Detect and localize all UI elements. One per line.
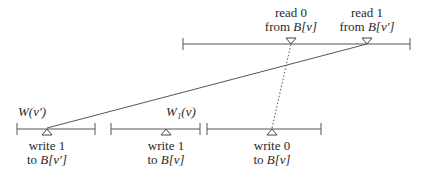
math: B[v]: [161, 152, 185, 167]
read-0-label: read 0 from B[v]: [265, 6, 317, 34]
solid-link-line: [47, 44, 367, 128]
bottom-timeline-2: [111, 123, 200, 135]
write-0-bv-label: write 0 to B[v]: [253, 139, 290, 167]
write-1-bv-triangle-icon: [161, 129, 171, 135]
math: B[v]: [293, 19, 317, 34]
read-1-triangle-icon: [362, 38, 372, 44]
dotted-link-line: [272, 44, 291, 128]
bottom-timeline-3: [207, 123, 321, 135]
read-0-line2: from B[v]: [265, 20, 317, 34]
diagram-canvas: read 0 from B[v] read 1 from B[v′] W(v′)…: [0, 0, 425, 173]
line2: to B[v]: [253, 153, 290, 167]
math: B[v]: [267, 152, 291, 167]
read-1-line1: read 1: [339, 6, 394, 20]
prefix: to: [253, 152, 266, 167]
read-1-label: read 1 from B[v′]: [339, 6, 394, 34]
read-1-line2: from B[v′]: [339, 20, 394, 34]
math: B[v′]: [40, 152, 67, 167]
line1: write 1: [147, 139, 184, 153]
bottom-timeline-1: [17, 123, 95, 135]
prefix: to: [27, 152, 40, 167]
math: B[v′]: [368, 19, 395, 34]
line2: to B[v]: [147, 153, 184, 167]
write-1-bv-label: write 1 to B[v]: [147, 139, 184, 167]
read-0-triangle-icon: [286, 38, 296, 44]
write-1-bv-prime-triangle-icon: [42, 129, 52, 135]
write-0-bv-triangle-icon: [267, 129, 277, 135]
top-timeline: [183, 38, 410, 50]
interval-label-w1-v: W₁(v): [166, 105, 196, 119]
line1: write 1: [27, 139, 67, 153]
line1: write 0: [253, 139, 290, 153]
line2: to B[v′]: [27, 153, 67, 167]
prefix: to: [147, 152, 160, 167]
write-1-bv-prime-label: write 1 to B[v′]: [27, 139, 67, 167]
read-0-line1: read 0: [265, 6, 317, 20]
prefix: from: [265, 19, 294, 34]
interval-label-w-v-prime: W(v′): [18, 105, 46, 119]
prefix: from: [339, 19, 368, 34]
